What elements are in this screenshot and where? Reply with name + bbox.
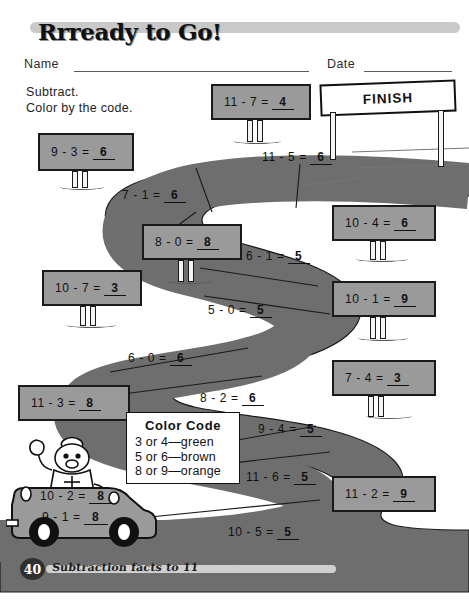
sign-board: 11 - 2 =9 <box>332 476 436 512</box>
finish-post-right <box>438 110 444 167</box>
finish-board: FINISH <box>319 79 456 116</box>
sign-equation: 11 - 2 =9 <box>334 487 415 502</box>
driver-hand <box>30 440 44 455</box>
sign-equation: 10 - 4 =6 <box>334 216 416 231</box>
sign-equation: 11 - 7 =4 <box>213 95 294 110</box>
finish-banner: FINISH <box>320 82 465 164</box>
sign-board: 11 - 3 =8 <box>18 385 130 421</box>
road-equation: 6 - 1 =5 <box>246 249 310 264</box>
road-equation: 10 - 5 =5 <box>228 525 299 540</box>
car-illustration: 10 - 2 =8 9 - 1 =8 <box>6 432 166 548</box>
finish-label: FINISH <box>363 90 414 107</box>
sign-board: 8 - 0 =8 <box>142 224 242 260</box>
driver-eye <box>75 453 80 458</box>
road-sign: 9 - 3 =6 <box>38 133 138 185</box>
footer-caption: Subtraction facts to 11 <box>51 561 199 574</box>
driver-snout <box>66 460 78 468</box>
road-equation: 5 - 0 =5 <box>208 303 272 318</box>
sign-board: 10 - 1 =9 <box>332 281 436 317</box>
sign-equation: 11 - 3 =8 <box>20 396 101 411</box>
sign-board: 11 - 7 =4 <box>211 84 311 120</box>
sign-ground <box>60 184 104 190</box>
sign-equation: 7 - 4 =3 <box>334 371 409 386</box>
road-sign: 8 - 0 =8 <box>142 224 247 278</box>
finish-post-left <box>330 112 336 160</box>
sign-board: 10 - 7 =3 <box>42 270 142 306</box>
worksheet-page: Rrready to Go! Name Date Subtract. Color… <box>0 0 469 609</box>
sign-ground <box>166 278 212 284</box>
road-sign: 11 - 2 =9 <box>332 476 442 518</box>
page-footer: 40 Subtraction facts to 11 <box>10 556 460 582</box>
road-sign: 11 - 7 =4 <box>211 84 316 136</box>
driver-character <box>30 438 106 493</box>
road-equation: 8 - 2 =6 <box>200 391 264 406</box>
car-window <box>21 487 31 501</box>
road-sign: 11 - 3 =8 <box>18 385 134 427</box>
car-equation: 9 - 1 =8 <box>42 510 108 525</box>
car-equation: 10 - 2 =8 <box>40 489 113 504</box>
road-equation: 11 - 6 =5 <box>246 470 316 485</box>
road-equation: 7 - 1 =6 <box>122 188 186 203</box>
road-equation: 6 - 0 =6 <box>128 351 192 366</box>
road-equation: 9 - 4 =5 <box>258 422 322 437</box>
sign-equation: 9 - 3 =6 <box>40 145 115 160</box>
sign-equation: 8 - 0 =8 <box>144 235 219 250</box>
sign-board: 9 - 3 =6 <box>38 133 134 171</box>
road-sign: 10 - 7 =3 <box>42 270 147 324</box>
sign-ground <box>366 413 412 419</box>
sign-board: 7 - 4 =3 <box>332 360 436 396</box>
sign-ground <box>233 138 281 144</box>
sign-equation: 10 - 1 =9 <box>334 292 416 307</box>
driver-eye <box>63 453 68 458</box>
road-sign: 7 - 4 =3 <box>332 360 442 416</box>
car-hubcap <box>118 524 130 540</box>
page-number-badge: 40 <box>20 558 45 580</box>
sign-equation: 10 - 7 =3 <box>44 281 126 296</box>
sign-board: 10 - 4 =6 <box>332 205 436 241</box>
sign-ground <box>358 335 408 341</box>
color-code-title: Color Code <box>135 418 231 433</box>
sign-ground <box>66 322 116 328</box>
car-bumper <box>6 520 18 526</box>
car-hubcap <box>38 524 50 540</box>
sign-ground <box>356 256 408 262</box>
road-sign: 10 - 1 =9 <box>332 281 442 337</box>
road-sign: 10 - 4 =6 <box>332 205 442 259</box>
